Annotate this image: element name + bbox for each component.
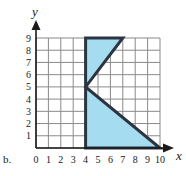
x-tick-label: 1 (46, 154, 51, 165)
origin-tick-label: 0 (34, 154, 39, 165)
x-tick-label: 10 (155, 154, 165, 165)
x-axis-arrowhead-icon (163, 144, 174, 153)
y-tick-label: 7 (26, 57, 31, 68)
graph-figure: 12345678910 123456789 x y b. 0 (0, 0, 186, 176)
x-tick-label: 8 (133, 154, 138, 165)
x-tick-label: 6 (108, 154, 113, 165)
y-tick-label: 5 (26, 81, 31, 92)
x-tick-label: 9 (145, 154, 150, 165)
y-axis-arrowhead-icon (32, 20, 41, 30)
x-tick-label: 2 (58, 154, 63, 165)
y-tick-label: 1 (26, 130, 31, 141)
x-tick-label: 5 (96, 154, 101, 165)
y-axis-tick-labels: 123456789 (26, 33, 31, 142)
y-tick-label: 3 (26, 106, 31, 117)
x-axis-tick-labels: 12345678910 (46, 154, 165, 165)
y-axis-label: y (30, 4, 38, 19)
y-tick-label: 2 (26, 118, 31, 129)
coordinate-plane-svg: 12345678910 123456789 x y b. 0 (0, 0, 186, 176)
y-tick-label: 6 (26, 69, 31, 80)
y-tick-label: 9 (26, 33, 31, 44)
x-tick-label: 4 (83, 154, 88, 165)
y-tick-label: 4 (26, 94, 31, 105)
problem-item-label: b. (3, 153, 12, 165)
x-tick-label: 7 (120, 154, 125, 165)
x-axis-label: x (175, 148, 182, 163)
y-tick-label: 8 (26, 45, 31, 56)
x-tick-label: 3 (71, 154, 76, 165)
